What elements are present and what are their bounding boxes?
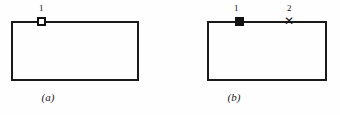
figure-pair: 1 (a) 1 ✕ 2 (b) <box>0 0 340 115</box>
panel-caption-b: (b) <box>149 92 319 103</box>
figure-panel-a: 1 (a) <box>0 0 170 115</box>
rectangle-outline-b <box>207 21 327 81</box>
figure-panel-b: 1 ✕ 2 (b) <box>170 0 340 115</box>
marker-label-b2: 2 <box>287 4 292 13</box>
rectangle-outline-a <box>11 21 139 81</box>
panel-caption-a: (a) <box>0 92 133 103</box>
marker-label-b1: 1 <box>234 4 239 13</box>
marker-label-a1: 1 <box>39 4 44 13</box>
filled-square-marker-icon <box>235 17 244 26</box>
open-square-marker-icon <box>37 17 46 26</box>
cross-marker-icon: ✕ <box>284 16 295 27</box>
